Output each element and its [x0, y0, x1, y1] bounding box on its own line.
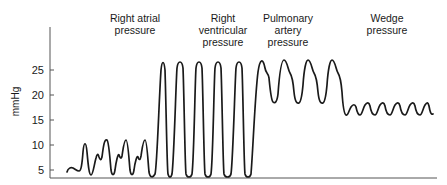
pressure-trace [67, 60, 433, 177]
plot-area [0, 0, 447, 185]
pressure-waveform-chart: Right atrial pressure Right ventricular … [0, 0, 447, 185]
y-ticks [50, 70, 54, 170]
